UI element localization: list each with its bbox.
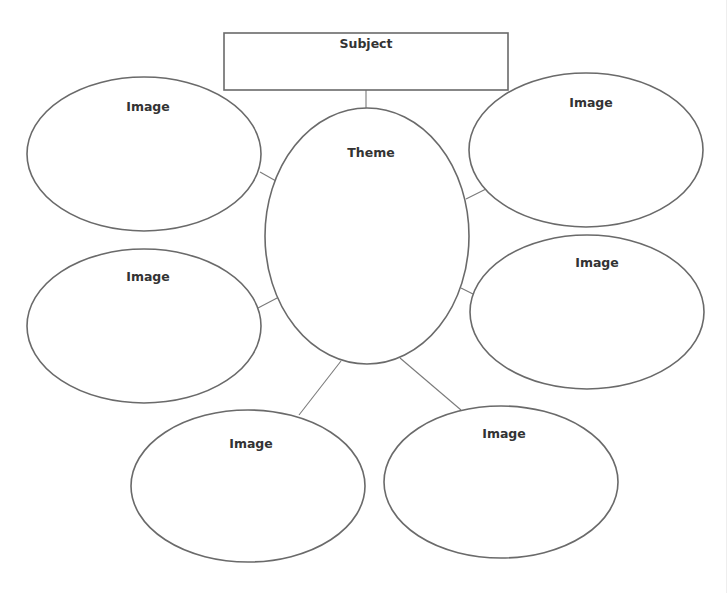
connector-theme-top-left: [260, 172, 276, 181]
connector-theme-middle-right: [461, 288, 473, 294]
scan-edge-line: [726, 0, 727, 593]
connector-theme-middle-left: [258, 297, 279, 308]
subject-label: Subject: [340, 38, 393, 51]
image-label-middle-left: Image: [126, 271, 170, 284]
connector-theme-bottom-right: [400, 358, 461, 410]
theme-label: Theme: [347, 147, 394, 160]
connector-theme-bottom-left: [299, 361, 341, 415]
image-label-top-left: Image: [126, 101, 170, 114]
concept-map-canvas: [0, 0, 728, 593]
image-ellipse-bottom-left[interactable]: [131, 410, 365, 562]
image-label-top-right: Image: [569, 97, 613, 110]
image-label-bottom-left: Image: [229, 438, 273, 451]
image-label-bottom-right: Image: [482, 428, 526, 441]
image-label-middle-right: Image: [575, 257, 619, 270]
connector-theme-top-right: [466, 189, 486, 199]
